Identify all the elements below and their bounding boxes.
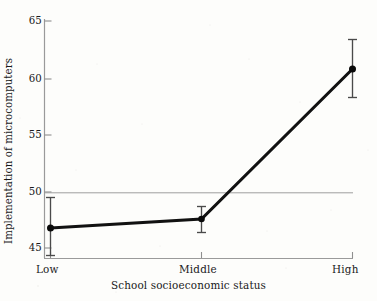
plot-area: [0, 0, 377, 301]
data-point-high: [349, 66, 356, 73]
data-point-low: [47, 225, 54, 232]
figure-container: Implementation of microcomputers 65 60 5…: [0, 0, 377, 301]
x-axis-ticks: [51, 252, 353, 258]
data-line: [51, 69, 353, 228]
data-point-middle: [198, 216, 205, 223]
